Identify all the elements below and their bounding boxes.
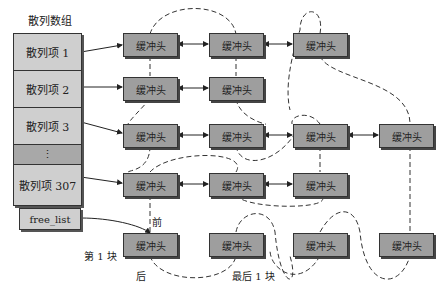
label-front: 前 [152, 214, 162, 229]
buffer-head: 缓冲头 [209, 33, 264, 57]
label-back: 后 [136, 268, 146, 283]
free-list-box: free_list [19, 208, 81, 230]
hash-item-2: 散列项 2 [14, 71, 81, 108]
label-first-block: 第 1 块 [84, 248, 117, 263]
buffer-head: 缓冲头 [123, 233, 178, 257]
buffer-head: 缓冲头 [209, 233, 264, 257]
hash-item-1: 散列项 1 [14, 34, 81, 71]
hash-item-307: 散列项 307 [14, 165, 81, 205]
hash-item-3: 散列项 3 [14, 108, 81, 145]
hash-item-ellipsis: ⋮ [14, 145, 81, 165]
buffer-head: 缓冲头 [293, 233, 348, 257]
hash-array: 散列项 1 散列项 2 散列项 3 ⋮ 散列项 307 [13, 33, 82, 206]
buffer-head: 缓冲头 [293, 33, 348, 57]
hash-array-title: 散列数组 [28, 12, 72, 28]
buffer-head: 缓冲头 [123, 77, 178, 101]
buffer-head: 缓冲头 [209, 173, 264, 197]
buffer-head: 缓冲头 [209, 77, 264, 101]
buffer-head: 缓冲头 [123, 124, 178, 148]
buffer-head: 缓冲头 [123, 173, 178, 197]
buffer-head: 缓冲头 [379, 233, 434, 257]
buffer-head: 缓冲头 [379, 124, 434, 148]
buffer-head: 缓冲头 [293, 173, 348, 197]
buffer-head: 缓冲头 [123, 33, 178, 57]
label-last-block: 最后 1 块 [232, 268, 275, 283]
buffer-head: 缓冲头 [209, 124, 264, 148]
buffer-head: 缓冲头 [293, 124, 348, 148]
